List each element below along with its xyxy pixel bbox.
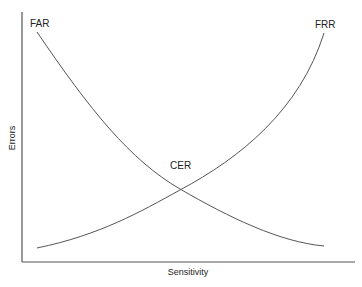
far-curve (37, 32, 324, 246)
x-axis-label: Sensitivity (168, 267, 209, 277)
cer-label: CER (170, 160, 191, 171)
frr-label: FRR (315, 19, 336, 30)
far-label: FAR (30, 18, 49, 29)
y-axis-label: Errors (7, 125, 17, 150)
frr-curve (37, 33, 324, 248)
chart-container: FAR FRR CER Sensitivity Errors (0, 0, 362, 287)
